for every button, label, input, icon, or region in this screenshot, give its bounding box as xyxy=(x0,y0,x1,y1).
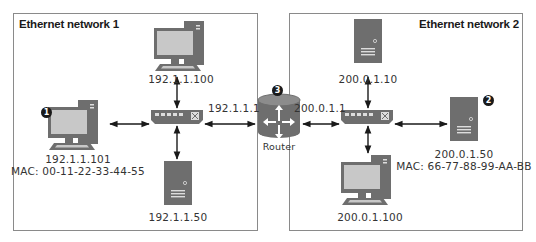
ip-label-server-top-right: 200.0.1.10 xyxy=(339,73,398,85)
ip-label-pc-top-left: 192.1.1.100 xyxy=(148,73,214,85)
ip-label-server-bottom-left: 192.1.1.50 xyxy=(149,211,208,223)
callout-badge-1: 1 xyxy=(41,107,52,118)
router-icon xyxy=(258,94,300,139)
server-192-1-1-50 xyxy=(164,161,192,205)
diagram-graphics xyxy=(0,0,536,242)
callout-badge-3: 3 xyxy=(272,85,283,96)
ip-label-pc-bottom-right: 200.0.1.100 xyxy=(337,211,403,223)
ip-label-server-right: 200.0.1.50 xyxy=(435,148,494,160)
router-left-ip: 192.1.1.1 xyxy=(208,102,260,114)
server-200-0-1-50 xyxy=(450,97,478,141)
router-label: Router xyxy=(263,141,296,153)
switch-1 xyxy=(151,110,203,124)
mac-label-pc-left: MAC: 00-11-22-33-44-55 xyxy=(11,165,145,177)
pc-200-0-1-100 xyxy=(341,155,391,205)
pc-192-1-1-101 xyxy=(48,100,98,150)
pc-192-1-1-100 xyxy=(154,21,204,71)
callout-badge-2: 2 xyxy=(483,95,494,106)
server-200-0-1-10 xyxy=(354,19,382,63)
router-right-ip: 200.0.1.1 xyxy=(294,102,346,114)
ip-label-pc-left: 192.1.1.101 xyxy=(45,153,111,165)
switch-2 xyxy=(341,110,393,124)
mac-label-server-right: MAC: 66-77-88-99-AA-BB xyxy=(396,160,531,172)
